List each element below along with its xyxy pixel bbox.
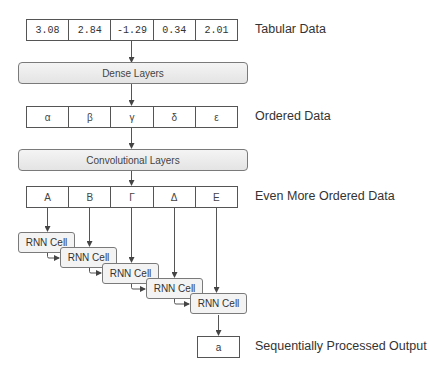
tabular-cell: 2.01 [196, 20, 237, 40]
tabular-cell: -1.29 [111, 20, 153, 40]
more-ordered-cell: Δ [154, 187, 196, 207]
arrow-rnn1-to-rnn2 [48, 253, 60, 258]
output-label: Sequentially Processed Output [255, 339, 427, 353]
more-ordered-data-label: Even More Ordered Data [255, 189, 395, 203]
more-ordered-cell: Β [69, 187, 111, 207]
tabular-cell: 2.84 [69, 20, 111, 40]
ordered-data-label: Ordered Data [255, 109, 331, 123]
more-ordered-cell: Α [27, 187, 69, 207]
more-ordered-cell: Γ [111, 187, 153, 207]
ordered-cell: δ [154, 107, 196, 127]
ordered-data-row: α β γ δ ε [26, 106, 238, 128]
arrow-rnn2-to-rnn3 [90, 268, 102, 273]
convolutional-layers-block: Convolutional Layers [18, 149, 248, 171]
tabular-data-row: 3.08 2.84 -1.29 0.34 2.01 [26, 19, 238, 41]
tabular-cell: 3.08 [27, 20, 69, 40]
tabular-cell: 0.34 [154, 20, 196, 40]
more-ordered-data-row: Α Β Γ Δ Ε [26, 186, 238, 208]
ordered-cell: γ [111, 107, 153, 127]
rnn-cell-5: RNN Cell [190, 293, 247, 314]
arrow-rnn3-to-rnn4 [132, 284, 146, 289]
more-ordered-cell: Ε [196, 187, 237, 207]
tabular-data-label: Tabular Data [255, 22, 326, 36]
output-box: a [197, 336, 240, 358]
ordered-cell: ε [196, 107, 237, 127]
dense-layers-block: Dense Layers [18, 62, 248, 84]
ordered-cell: α [27, 107, 69, 127]
arrow-rnn4-to-rnn5 [175, 299, 190, 304]
ordered-cell: β [69, 107, 111, 127]
